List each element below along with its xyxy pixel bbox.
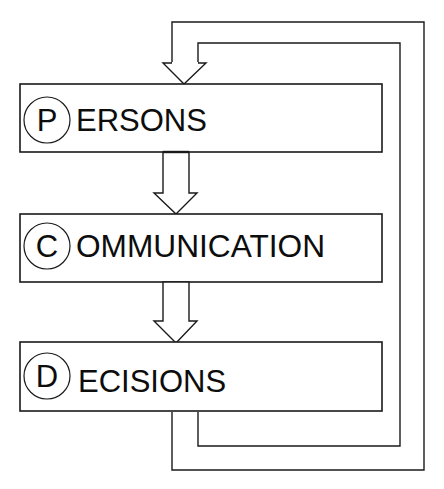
persons-label: ERSONS (76, 103, 207, 138)
communication-label: OMMUNICATION (76, 229, 325, 264)
feedback-arrowhead (163, 63, 206, 84)
pcd-flow-diagram: P ERSONS C OMMUNICATION D ECISIONS (0, 0, 444, 489)
decisions-initial: D (36, 359, 58, 394)
arrow-persons-to-communication (154, 152, 197, 214)
arrow-communication-to-decisions (154, 282, 197, 343)
down-arrow-1 (154, 152, 197, 214)
persons-initial: P (37, 103, 58, 138)
box-decisions: D ECISIONS (20, 342, 382, 411)
down-arrow-2 (154, 282, 197, 343)
box-communication: C OMMUNICATION (20, 214, 382, 282)
decisions-label: ECISIONS (78, 364, 226, 399)
box-persons: P ERSONS (20, 84, 382, 152)
communication-initial: C (36, 229, 58, 264)
